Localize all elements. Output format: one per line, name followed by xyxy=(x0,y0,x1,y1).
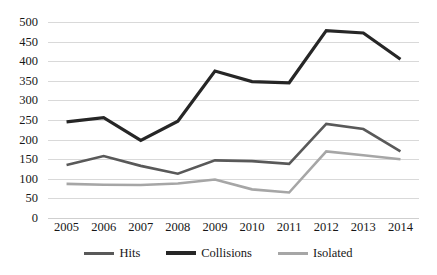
legend-item-hits[interactable]: Hits xyxy=(84,247,140,260)
x-axis-tick-label: 2010 xyxy=(240,221,265,234)
legend-label: Hits xyxy=(119,247,140,260)
legend-label: Isolated xyxy=(313,247,353,260)
chart-legend: HitsCollisionsIsolated xyxy=(0,247,437,260)
series-line-hits xyxy=(67,124,401,174)
y-axis-tick-label: 100 xyxy=(19,173,38,186)
plot-area xyxy=(48,22,419,218)
legend-swatch-icon xyxy=(278,252,308,255)
y-axis-tick-label: 350 xyxy=(19,75,38,88)
legend-swatch-icon xyxy=(166,251,196,255)
legend-item-collisions[interactable]: Collisions xyxy=(166,247,252,260)
y-axis-tick-label: 50 xyxy=(26,192,39,205)
y-axis-tick-label: 300 xyxy=(19,94,38,107)
legend-swatch-icon xyxy=(84,252,114,255)
x-axis-tick-label: 2007 xyxy=(128,221,153,234)
x-axis-tick-label: 2013 xyxy=(351,221,376,234)
y-axis-tick-label: 450 xyxy=(19,35,38,48)
y-axis-tick-label: 0 xyxy=(32,212,38,225)
legend-label: Collisions xyxy=(201,247,252,260)
line-chart: 500450400350300250200150100500 200520062… xyxy=(0,0,437,275)
y-axis-tick-label: 400 xyxy=(19,55,38,68)
x-axis-tick-label: 2006 xyxy=(91,221,116,234)
x-axis-tick-label: 2008 xyxy=(165,221,190,234)
x-axis-tick-label: 2005 xyxy=(54,221,79,234)
series-layer xyxy=(48,22,419,218)
x-axis-tick-label: 2011 xyxy=(277,221,302,234)
x-axis: 2005200620072008200920102011201220132014 xyxy=(48,221,419,239)
x-axis-tick-label: 2014 xyxy=(388,221,413,234)
y-axis-tick-label: 500 xyxy=(19,16,38,29)
gridline xyxy=(48,218,419,219)
series-line-collisions xyxy=(67,31,401,141)
y-axis-tick-label: 250 xyxy=(19,114,38,127)
x-axis-tick-label: 2009 xyxy=(202,221,227,234)
series-line-isolated xyxy=(67,151,401,192)
y-axis: 500450400350300250200150100500 xyxy=(0,22,44,218)
y-axis-tick-label: 200 xyxy=(19,133,38,146)
y-axis-tick-label: 150 xyxy=(19,153,38,166)
x-axis-tick-label: 2012 xyxy=(314,221,339,234)
legend-item-isolated[interactable]: Isolated xyxy=(278,247,353,260)
